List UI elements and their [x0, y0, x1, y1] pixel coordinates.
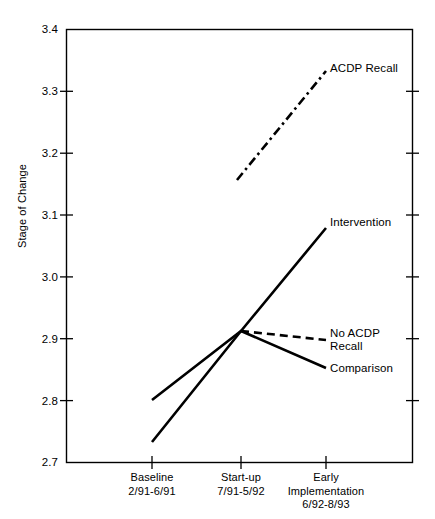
- x-tick-early-line3: 6/92-8/93: [266, 498, 386, 512]
- series-label-intervention: Intervention: [330, 216, 391, 230]
- plot-canvas: [0, 0, 435, 519]
- plot-border: [67, 30, 413, 463]
- series-label-no-acdp-recall-line1: No ACDP: [330, 327, 380, 341]
- series-label-comparison: Comparison: [330, 362, 393, 376]
- x-tick-label-early-implementation: Early Implementation 6/92-8/93: [266, 471, 386, 512]
- series-line-comparison: [152, 331, 326, 400]
- series-line-intervention: [152, 228, 326, 442]
- series-label-acdp-recall: ACDP Recall: [330, 62, 398, 76]
- series-label-no-acdp-recall-line2: Recall: [330, 340, 363, 354]
- chart-figure: Stage of Change 3.4 3.3 3.2 3.1 3.0 2.9 …: [0, 0, 435, 519]
- x-tick-baseline-line1: Baseline: [102, 471, 202, 485]
- series-line-acdp-recall: [237, 71, 326, 180]
- x-tick-label-baseline: Baseline 2/91-6/91: [102, 471, 202, 498]
- x-tick-early-line2: Implementation: [266, 485, 386, 499]
- x-tick-early-line1: Early: [266, 471, 386, 485]
- x-tick-baseline-line2: 2/91-6/91: [102, 485, 202, 499]
